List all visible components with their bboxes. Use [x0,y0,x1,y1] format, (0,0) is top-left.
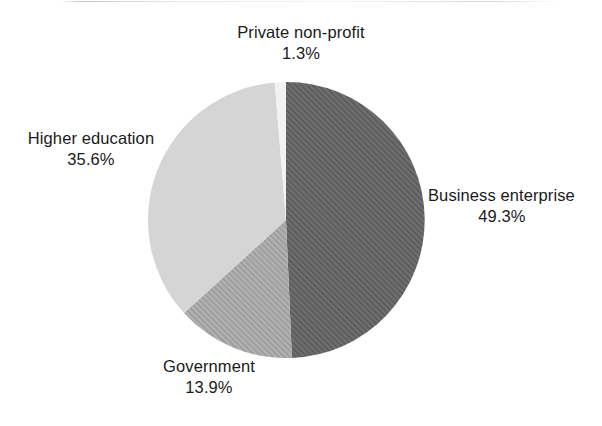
pie-label-higher-education-value: 35.6% [2,149,180,170]
pie-label-private-non-profit-value: 1.3% [0,43,602,64]
pie-label-higher-education-name: Higher education [2,128,180,149]
pie-label-higher-education: Higher education 35.6% [2,128,180,170]
pie-label-private-non-profit-name: Private non-profit [0,22,602,43]
pie-label-business-enterprise: Business enterprise 49.3% [428,185,602,227]
pie-label-private-non-profit: Private non-profit 1.3% [0,22,602,64]
pie-label-government-value: 13.9% [118,377,300,398]
pie-label-business-enterprise-name: Business enterprise [428,185,602,206]
pie-label-government-name: Government [118,356,300,377]
pie-chart-figure: Private non-profit 1.3% Higher education… [0,0,602,426]
pie-label-government: Government 13.9% [118,356,300,398]
pie-slice-business-enterprise [286,82,425,358]
pie-label-business-enterprise-value: 49.3% [428,206,576,227]
